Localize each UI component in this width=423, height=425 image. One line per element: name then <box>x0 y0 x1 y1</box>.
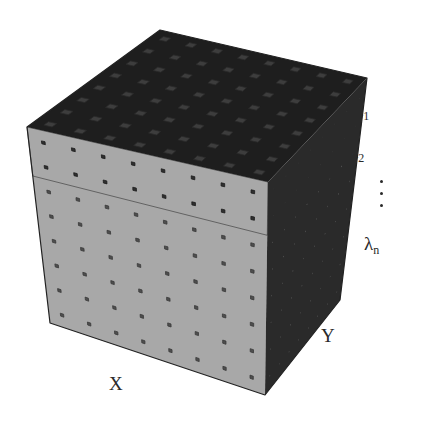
ellipsis-dots <box>380 180 384 216</box>
x-axis-label: X <box>109 374 123 393</box>
lambda-n-label: λn <box>364 234 379 256</box>
y-axis-label: Y <box>321 326 335 345</box>
lambda-2-label: λ2 <box>349 142 364 164</box>
hyperspectral-cube-figure: λ1 λ2 λn Y X <box>0 0 423 425</box>
lambda-1-label: λ1 <box>354 100 369 122</box>
data-cube <box>0 0 423 425</box>
